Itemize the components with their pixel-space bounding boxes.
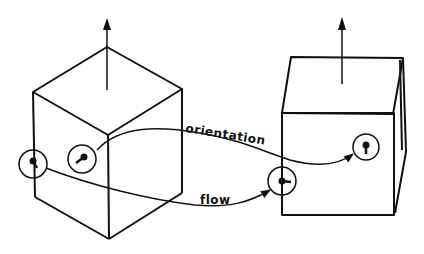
flow-label: flow	[200, 193, 231, 207]
left-cube-normal-arrow	[103, 18, 111, 90]
diagram-canvas: orientation flow	[0, 0, 424, 254]
circle-marker-left-edge	[19, 150, 47, 178]
right-cube-normal-arrow	[338, 17, 346, 84]
diagram-svg: orientation flow	[0, 0, 424, 254]
orientation-label: orientation	[185, 121, 267, 147]
flow-curve	[46, 168, 270, 206]
right-cube	[282, 57, 406, 215]
circle-marker-right-face	[353, 134, 379, 160]
circle-marker-left-face	[68, 145, 96, 173]
